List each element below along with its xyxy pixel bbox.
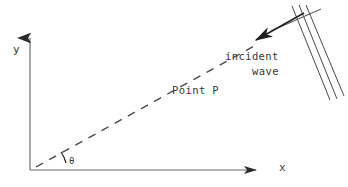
x-axis-label: x	[279, 162, 286, 174]
point-p-label: Point P	[172, 85, 219, 96]
incident-wave-label-line1: incident	[225, 51, 279, 62]
angle-theta-label: θ	[69, 157, 75, 166]
incident-wave-label-line2: wave	[252, 66, 279, 77]
y-axis-label: y	[13, 44, 20, 56]
